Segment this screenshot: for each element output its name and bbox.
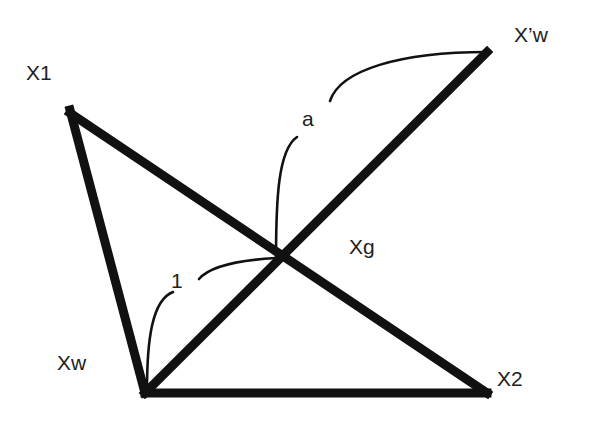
label-xw: Xw bbox=[57, 351, 87, 374]
label-xg: Xg bbox=[349, 235, 375, 258]
label-one: 1 bbox=[171, 269, 183, 292]
label-x2: X2 bbox=[497, 367, 523, 390]
label-a: a bbox=[302, 107, 314, 130]
segment-xw-xprimew bbox=[145, 52, 487, 393]
label-xprime-w: X’w bbox=[514, 23, 549, 46]
diagram-canvas: X1 X’w a Xg 1 Xw X2 bbox=[0, 0, 589, 428]
label-x1: X1 bbox=[26, 61, 52, 84]
